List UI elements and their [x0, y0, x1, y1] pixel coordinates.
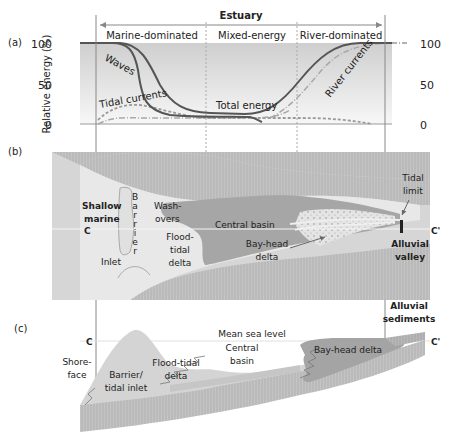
zone-mixed-energy: Mixed-energy [218, 30, 286, 41]
panel-c-cross-section: (c) Alluvial sediments C C' Shore- face … [14, 301, 440, 432]
barrier-letter: r [133, 246, 137, 256]
bay-head-delta-c-label: Bay-head delta [314, 345, 382, 355]
flood-tidal-delta-c-label-1: Flood-tidal [152, 358, 199, 368]
alluvial-valley-label-2: valley [395, 252, 425, 262]
panel-b-plan-view: (b) Shallow marine C B a r r [8, 146, 440, 300]
zone-river-dominated: River-dominated [300, 30, 383, 41]
y-axis-label: Relative energy (%) [41, 34, 52, 133]
flood-tidal-delta-label-2: tidal [170, 245, 190, 255]
flood-tidal-delta-c-label-2: delta [165, 371, 188, 381]
estuary-label: Estuary [220, 10, 263, 21]
c-left-label-b: C [84, 226, 91, 236]
alluvial-valley-label-1: Alluvial [391, 239, 429, 249]
washovers-label-1: Wash- [154, 201, 181, 211]
flood-tidal-delta-label-1: Flood- [166, 232, 194, 242]
barrier-tidal-inlet-label-2: tidal inlet [105, 383, 148, 393]
ytick-right-50: 50 [420, 79, 434, 92]
shoreface-label-2: face [67, 370, 87, 380]
barrier-tidal-inlet-label-1: Barrier/ [109, 370, 144, 380]
central-basin-label: Central basin [215, 220, 275, 230]
total-energy-label: Total energy [215, 100, 277, 111]
tidal-limit-label-2: limit [403, 186, 423, 196]
ytick-right-100: 100 [420, 38, 441, 51]
washovers-label-2: overs [155, 214, 180, 224]
shoreface-label-1: Shore- [62, 357, 91, 367]
panel-label-b: (b) [8, 146, 22, 157]
tidal-limit-marker [400, 220, 403, 233]
c-left-label-c: C [86, 337, 93, 347]
c-prime-label-c: C' [431, 337, 440, 347]
chart-background [80, 43, 392, 124]
alluvial-sediments-label-1: Alluvial [390, 301, 428, 311]
central-basin-c-label-1: Central [226, 343, 259, 353]
alluvial-sediments-label-2: sediments [383, 314, 436, 324]
panel-label-c: (c) [14, 323, 27, 334]
tidal-limit-label-1: Tidal [401, 173, 423, 183]
mean-sea-level-label: Mean sea level [218, 329, 285, 339]
bay-head-delta-label-1: Bay-head [246, 239, 289, 249]
shallow-marine-label-1: Shallow [82, 201, 122, 211]
ytick-right-0: 0 [420, 119, 427, 132]
flood-tidal-delta-label-3: delta [169, 258, 192, 268]
inlet-label: Inlet [101, 257, 121, 267]
panel-label-a: (a) [8, 37, 22, 48]
bay-head-delta-label-2: delta [256, 252, 279, 262]
shallow-marine-label-2: marine [84, 214, 120, 224]
central-basin-c-label-2: basin [230, 356, 254, 366]
zone-marine-dominated: Marine-dominated [106, 30, 198, 41]
c-prime-label-b: C' [431, 226, 440, 236]
